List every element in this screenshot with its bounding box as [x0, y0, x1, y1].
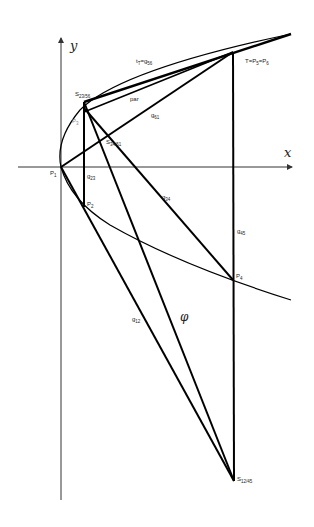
- svg-text:T=P5=P6: T=P5=P6: [245, 58, 269, 66]
- svg-text:P4: P4: [236, 273, 243, 281]
- svg-text:tT=g56: tT=g56: [136, 58, 153, 66]
- label-phi: φ: [180, 310, 189, 324]
- x-axis-label: x: [284, 145, 292, 160]
- label-P4: P4: [236, 273, 243, 281]
- svg-text:g45: g45: [237, 228, 246, 236]
- svg-text:P1: P1: [50, 170, 57, 178]
- svg-text:S12/45: S12/45: [237, 476, 253, 484]
- label-tT: tT=g56: [136, 58, 153, 66]
- line-g45: [233, 52, 234, 481]
- label-g61: g61: [151, 112, 160, 120]
- line-g34: [84, 108, 233, 280]
- svg-text:P2: P2: [87, 201, 94, 209]
- label-S34-61: S34/61: [106, 139, 122, 147]
- label-S23-56: S23/56: [75, 91, 91, 99]
- svg-text:g23: g23: [87, 173, 96, 181]
- label-P3: P3: [72, 118, 79, 126]
- svg-text:g12: g12: [132, 316, 141, 324]
- label-g45: g45: [237, 228, 246, 236]
- svg-text:g61: g61: [151, 112, 160, 120]
- pascal-line-phi: [84, 102, 234, 481]
- label-P1: P1: [50, 170, 57, 178]
- svg-text:P3: P3: [72, 118, 79, 126]
- tangent-line-tT: [84, 34, 291, 102]
- label-par: par: [130, 96, 139, 102]
- svg-text:S23/56: S23/56: [75, 91, 91, 99]
- line-g12: [61, 167, 234, 481]
- label-g23: g23: [87, 173, 96, 181]
- y-axis-label: y: [69, 38, 78, 53]
- svg-text:S34/61: S34/61: [106, 139, 122, 147]
- label-P2: P2: [87, 201, 94, 209]
- pascal-hexagon-diagram: y x tT=g56 T=P5=P6 S23/56 par g61 P3 S34…: [0, 0, 314, 527]
- label-S12-45: S12/45: [237, 476, 253, 484]
- label-g12: g12: [132, 316, 141, 324]
- label-T: T=P5=P6: [245, 58, 269, 66]
